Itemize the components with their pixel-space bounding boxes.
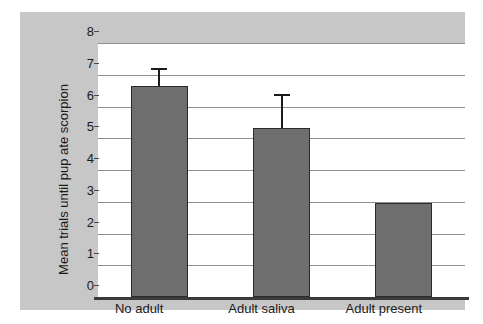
y-tick-label-6: 6 [72,89,94,102]
y-tick-label-0: 0 [72,279,94,292]
y-tick-mark-5 [94,126,99,127]
y-tick-mark-1 [94,253,99,254]
error-bar-stem-1 [281,94,283,128]
plot-area [98,43,465,297]
gridline-8 [98,43,465,44]
gridline-7 [98,75,465,76]
y-tick-label-1: 1 [72,247,94,260]
y-tick-mark-6 [94,95,99,96]
error-bar-cap-0 [151,68,167,70]
bar-adult-saliva [253,128,310,297]
y-tick-label-5: 5 [72,120,94,133]
x-axis-line [94,297,469,300]
y-axis-title: Mean trials until pup ate scorpion [56,75,71,285]
bar-adult-present [375,203,432,297]
y-tick-mark-0 [94,285,99,286]
bar-no-adult [131,86,188,297]
y-tick-label-2: 2 [72,216,94,229]
x-tick-label-no-adult: No adult [79,301,199,316]
y-tick-label-4: 4 [72,152,94,165]
y-tick-mark-7 [94,63,99,64]
error-bar-cap-1 [274,94,290,96]
y-axis-tick-labels: 012345678 [68,12,94,324]
y-tick-label-7: 7 [72,57,94,70]
x-tick-label-adult-saliva: Adult saliva [202,301,322,316]
bar-chart-figure: 012345678 Mean trials until pup ate scor… [0,0,483,324]
y-tick-label-3: 3 [72,184,94,197]
error-bar-stem-0 [158,68,160,85]
y-tick-mark-3 [94,190,99,191]
x-tick-label-adult-present: Adult present [324,301,444,316]
y-tick-mark-8 [94,31,99,32]
figure-frame: 012345678 Mean trials until pup ate scor… [20,12,465,310]
y-tick-label-8: 8 [72,25,94,38]
y-tick-mark-4 [94,158,99,159]
y-tick-mark-2 [94,222,99,223]
